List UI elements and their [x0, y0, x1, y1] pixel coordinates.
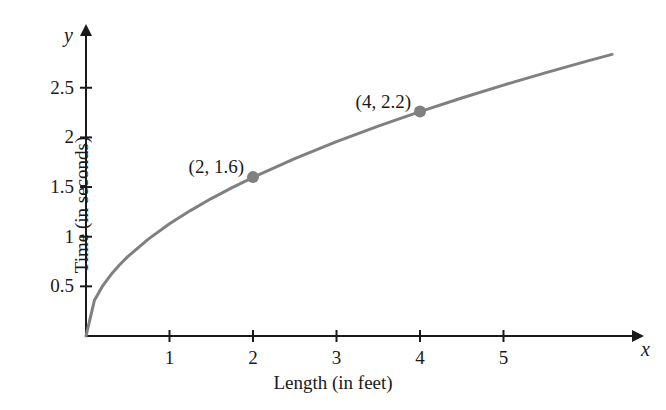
data-point-annotation: (2, 1.6) [189, 156, 244, 178]
x-axis-variable-label: x [641, 338, 650, 361]
axes-group [80, 24, 644, 342]
data-point-annotation: (4, 2.2) [356, 91, 411, 113]
data-curve [86, 54, 612, 336]
x-tick-label: 3 [332, 347, 342, 369]
data-point-markers [247, 106, 426, 184]
y-tick-label: 0.5 [50, 275, 74, 297]
x-tick-label: 4 [415, 347, 425, 369]
x-tick-label: 2 [248, 347, 258, 369]
x-tick-label: 1 [165, 347, 175, 369]
chart-figure: 123450.511.522.5 (2, 1.6)(4, 2.2) y x Ti… [0, 0, 666, 410]
page-top-artifact-right [250, 0, 254, 11]
page-top-artifact-left [175, 0, 179, 11]
data-point-marker [247, 171, 259, 183]
x-axis-title: Length (in feet) [273, 372, 392, 394]
y-axis-title: Time (in seconds) [71, 137, 93, 274]
data-point-marker [414, 106, 426, 118]
x-tick-label: 5 [499, 347, 509, 369]
y-axis-arrowhead [80, 24, 92, 36]
y-axis-variable-label: y [64, 24, 73, 47]
y-tick-label: 2.5 [50, 77, 74, 99]
